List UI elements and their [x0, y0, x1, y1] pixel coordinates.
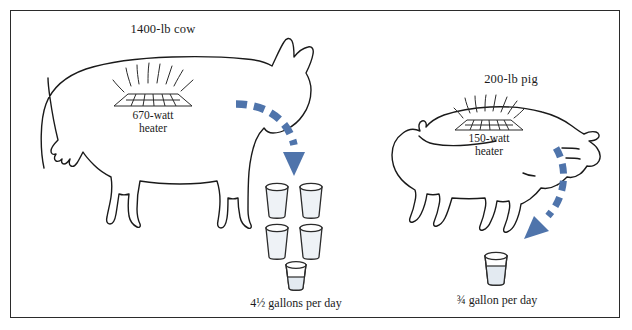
figure-root: 1400-lb cow 670-watt heater: [0, 0, 632, 330]
pig-output-caption: ¾ gallon per day: [457, 293, 538, 308]
pig-buckets: [0, 0, 632, 330]
bucket-partial: [485, 252, 507, 285]
